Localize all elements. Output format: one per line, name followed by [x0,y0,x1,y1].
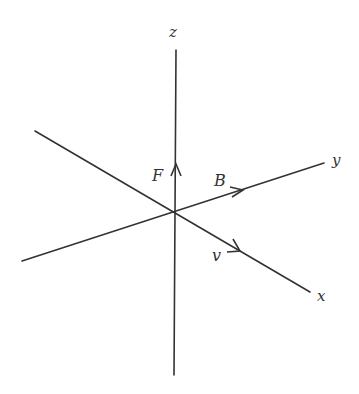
z-axis-label: z [169,25,177,40]
force-diagram-canvas [0,0,359,394]
velocity-label: v [212,248,221,264]
y-axis-label: y [332,153,340,168]
force-label: F [152,168,163,184]
x-axis-label: x [317,289,325,304]
x-axis-line [35,131,310,292]
magnetic-field-label: B [214,173,226,189]
